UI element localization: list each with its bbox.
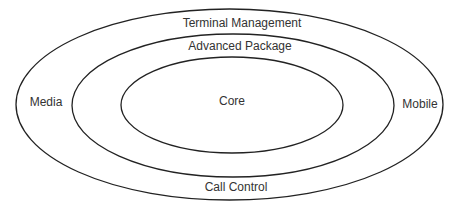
label-terminal-management: Terminal Management xyxy=(183,17,302,29)
label-advanced-package: Advanced Package xyxy=(188,40,291,52)
layered-package-diagram: Terminal Management Advanced Package Cor… xyxy=(0,0,460,208)
label-media: Media xyxy=(30,96,63,108)
label-core: Core xyxy=(219,95,245,107)
label-call-control: Call Control xyxy=(205,181,268,193)
label-mobile: Mobile xyxy=(402,98,437,110)
